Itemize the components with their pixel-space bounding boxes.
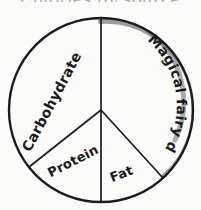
divider-fat-magical bbox=[101, 110, 163, 178]
pie-chart-canvas: Carbohydrate Magical fairy dust Protein … bbox=[0, 0, 201, 210]
slice-label-carbohydrate: Carbohydrate bbox=[19, 49, 85, 154]
pie-chart-figure: Calories by source Carbohydrate Magical bbox=[0, 0, 201, 210]
slice-label-fat: Fat bbox=[108, 163, 136, 186]
